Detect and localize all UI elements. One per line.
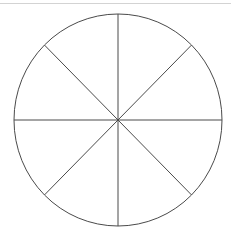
pie-figure-container [0,0,231,236]
pie-chart-svg [0,0,231,236]
page-root: Circle divided into eight equal sectors [0,0,231,236]
